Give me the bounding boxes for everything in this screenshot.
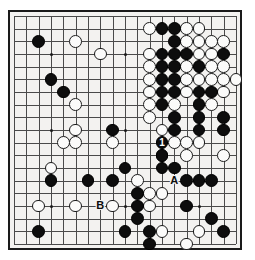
go-diagram: 12AB bbox=[0, 0, 255, 260]
move-number-2: 2 bbox=[156, 149, 169, 162]
annotation-layer: 12AB bbox=[8, 10, 242, 250]
point-label-b: B bbox=[94, 200, 107, 213]
go-board[interactable]: 12AB bbox=[8, 10, 242, 250]
point-label-a: A bbox=[168, 174, 181, 187]
move-number-1: 1 bbox=[156, 136, 169, 149]
